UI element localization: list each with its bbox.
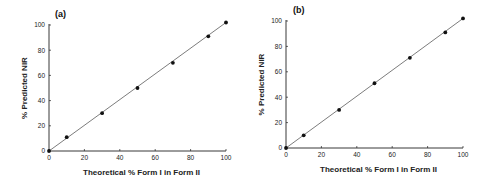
data-point bbox=[337, 108, 341, 112]
y-tick-label: 100 bbox=[271, 17, 282, 24]
y-axis-title: % Predicted NIR bbox=[20, 57, 29, 119]
data-point bbox=[65, 135, 69, 139]
data-point bbox=[206, 34, 210, 38]
x-tick-label: 0 bbox=[284, 151, 288, 158]
x-axis-title: Theoretical % Form I in Form II bbox=[320, 165, 437, 174]
data-point bbox=[47, 149, 51, 153]
figure: 020406080100020406080100Theoretical % Fo… bbox=[0, 0, 480, 185]
data-point bbox=[461, 17, 465, 21]
x-tick-label: 40 bbox=[116, 154, 124, 161]
y-tick-label: 20 bbox=[38, 122, 46, 129]
y-tick-label: 80 bbox=[275, 43, 283, 50]
y-tick-label: 40 bbox=[38, 97, 46, 104]
data-point bbox=[100, 111, 104, 115]
x-tick-label: 60 bbox=[389, 151, 397, 158]
y-tick-label: 60 bbox=[38, 72, 46, 79]
chart-panel-b: 020406080100020406080100Theoretical % Fo… bbox=[257, 5, 469, 174]
x-tick-label: 80 bbox=[187, 154, 195, 161]
y-tick-label: 40 bbox=[275, 94, 283, 101]
data-point bbox=[408, 56, 412, 60]
panel-label: (a) bbox=[55, 9, 66, 19]
data-point bbox=[224, 21, 228, 25]
x-axis-title: Theoretical % Form I in Form II bbox=[83, 168, 200, 177]
y-tick-label: 80 bbox=[38, 47, 46, 54]
data-point bbox=[373, 81, 377, 85]
y-tick-label: 0 bbox=[278, 144, 282, 151]
x-tick-label: 0 bbox=[47, 154, 51, 161]
x-tick-label: 100 bbox=[458, 151, 469, 158]
x-tick-label: 100 bbox=[221, 154, 232, 161]
chart-panel-a: 020406080100020406080100Theoretical % Fo… bbox=[20, 9, 232, 177]
data-point bbox=[302, 133, 306, 137]
x-tick-label: 20 bbox=[81, 154, 89, 161]
x-tick-label: 80 bbox=[424, 151, 432, 158]
y-tick-label: 60 bbox=[275, 68, 283, 75]
data-point bbox=[443, 31, 447, 35]
x-tick-label: 40 bbox=[353, 151, 361, 158]
data-point bbox=[171, 61, 175, 65]
y-tick-label: 0 bbox=[41, 147, 45, 154]
y-axis-title: % Predicted NIR bbox=[257, 53, 266, 115]
x-tick-label: 60 bbox=[152, 154, 160, 161]
x-tick-label: 20 bbox=[318, 151, 326, 158]
data-point bbox=[136, 86, 140, 90]
y-tick-label: 100 bbox=[34, 21, 45, 28]
panel-label: (b) bbox=[293, 5, 305, 15]
y-tick-label: 20 bbox=[275, 119, 283, 126]
data-point bbox=[284, 146, 288, 150]
